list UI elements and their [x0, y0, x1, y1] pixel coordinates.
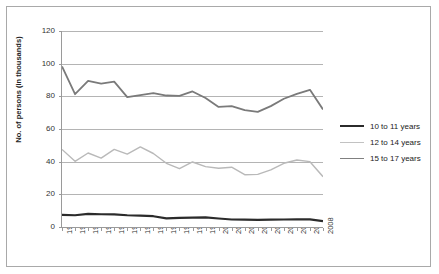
- series-line-15-to-17-years: [62, 66, 323, 111]
- plot-area: [62, 31, 323, 227]
- chart-legend: 10 to 11 years12 to 14 years15 to 17 yea…: [340, 118, 421, 166]
- legend-color-swatch: [340, 142, 364, 143]
- y-axis-tick-label: 80: [29, 92, 55, 100]
- legend-item[interactable]: 15 to 17 years: [340, 150, 421, 166]
- x-axis-tickmark: [101, 228, 102, 231]
- x-axis-tickmark: [310, 228, 311, 231]
- y-axis-tick-label: 100: [29, 60, 55, 68]
- x-axis-tickmark: [258, 228, 259, 231]
- y-axis-tick-label: 40: [29, 158, 55, 166]
- x-axis-tickmark: [75, 228, 76, 231]
- x-axis-tickmark: [271, 228, 272, 231]
- x-axis-tickmark: [179, 228, 180, 231]
- x-axis-line: [62, 227, 323, 228]
- legend-item-label: 10 to 11 years: [370, 122, 420, 131]
- x-axis-tickmark: [127, 228, 128, 231]
- legend-item[interactable]: 10 to 11 years: [340, 118, 421, 134]
- x-axis-tickmark: [62, 228, 63, 231]
- series-lines: [62, 31, 323, 227]
- x-axis-tickmark: [297, 228, 298, 231]
- series-line-12-to-14-years: [62, 147, 323, 177]
- y-axis-title: No. of persons (in thousands): [14, 10, 23, 170]
- legend-item-label: 15 to 17 years: [370, 154, 421, 163]
- x-axis-tickmark: [153, 228, 154, 231]
- legend-color-swatch: [340, 125, 364, 127]
- chart-figure: No. of persons (in thousands) 0204060801…: [0, 0, 439, 274]
- y-axis-tick-label: 120: [29, 27, 55, 35]
- y-axis-tick-label: 60: [29, 125, 55, 133]
- x-axis-tickmark: [245, 228, 246, 231]
- series-line-10-to-11-years: [62, 214, 323, 221]
- y-axis-line: [61, 31, 62, 227]
- x-axis-tickmark: [193, 228, 194, 231]
- x-axis-tickmark: [88, 228, 89, 231]
- x-axis-tick-label: 2008: [327, 217, 335, 234]
- x-axis-tickmark: [114, 228, 115, 231]
- legend-color-swatch: [340, 158, 364, 159]
- x-axis-tickmark: [232, 228, 233, 231]
- legend-item[interactable]: 12 to 14 years: [340, 134, 421, 150]
- legend-item-label: 12 to 14 years: [370, 138, 421, 147]
- x-axis-tickmark: [166, 228, 167, 231]
- x-axis-tickmark: [284, 228, 285, 231]
- x-axis-tickmark: [323, 228, 324, 231]
- x-axis-tickmark: [140, 228, 141, 231]
- y-axis-tick-label: 0: [29, 223, 55, 231]
- x-axis-tickmark: [219, 228, 220, 231]
- x-axis-tickmark: [206, 228, 207, 231]
- y-axis-tick-label: 20: [29, 190, 55, 198]
- chart-area: No. of persons (in thousands) 0204060801…: [0, 0, 439, 274]
